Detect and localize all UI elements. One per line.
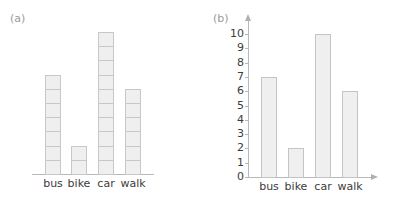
y-tick-label: 9 (230, 41, 244, 54)
pictogram-box (45, 89, 61, 104)
y-axis-b (248, 20, 249, 178)
category-label: bike (281, 180, 311, 193)
category-label: bike (64, 177, 94, 190)
panel-label-b: (b) (213, 12, 229, 25)
pictogram-box (98, 131, 114, 146)
pictogram-box (71, 160, 87, 175)
pictogram-box (125, 146, 141, 161)
y-tick-label: 3 (230, 127, 244, 140)
y-tick-label: 8 (230, 56, 244, 69)
y-tick-mark (245, 120, 248, 121)
y-tick-label: 5 (230, 99, 244, 112)
bar-bus (261, 77, 277, 178)
pictogram-box (98, 89, 114, 104)
bar-car (315, 34, 331, 178)
y-tick-label: 4 (230, 113, 244, 126)
category-label: car (91, 177, 121, 190)
pictogram-box (125, 89, 141, 104)
y-tick-label: 6 (230, 84, 244, 97)
y-tick-mark (245, 63, 248, 64)
category-label: bus (254, 180, 284, 193)
pictogram-box (45, 160, 61, 175)
pictogram-box (125, 103, 141, 118)
pictogram-box (45, 131, 61, 146)
pictogram-box (125, 160, 141, 175)
pictogram-box (98, 160, 114, 175)
pictogram-box (98, 146, 114, 161)
pictogram-box (45, 146, 61, 161)
pictogram-box (98, 75, 114, 90)
pictogram-box (71, 146, 87, 161)
y-tick-mark (245, 77, 248, 78)
pictogram-box (98, 32, 114, 47)
pictogram-box (45, 103, 61, 118)
y-tick-label: 2 (230, 141, 244, 154)
pictogram-box (45, 117, 61, 132)
category-label: walk (118, 177, 148, 190)
pictogram-box (98, 117, 114, 132)
y-tick-mark (245, 177, 248, 178)
pictogram-box (98, 60, 114, 75)
y-tick-label: 10 (230, 27, 244, 40)
y-tick-mark (245, 134, 248, 135)
y-tick-label: 7 (230, 70, 244, 83)
panel-label-a: (a) (10, 12, 25, 25)
bar-walk (342, 91, 358, 178)
y-axis-arrow-icon (245, 14, 251, 21)
pictogram-box (125, 131, 141, 146)
x-axis-arrow-icon (371, 174, 378, 180)
pictogram-box (45, 75, 61, 90)
category-label: walk (335, 180, 365, 193)
y-tick-mark (245, 48, 248, 49)
y-tick-mark (245, 148, 248, 149)
y-tick-label: 1 (230, 156, 244, 169)
bar-bike (288, 148, 304, 178)
pictogram-box (125, 117, 141, 132)
y-tick-mark (245, 34, 248, 35)
pictogram-box (98, 46, 114, 61)
y-tick-mark (245, 106, 248, 107)
y-tick-mark (245, 91, 248, 92)
category-label: car (308, 180, 338, 193)
y-tick-mark (245, 163, 248, 164)
pictogram-box (98, 103, 114, 118)
y-tick-label: 0 (230, 170, 244, 183)
